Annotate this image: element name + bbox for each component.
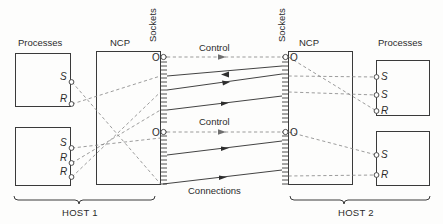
label-processes-right: Processes: [378, 37, 423, 48]
process-socket-links-left: [72, 76, 161, 184]
label-sockets-right: Sockets: [276, 8, 287, 42]
socket-marker-left-upper-label: O: [152, 52, 160, 63]
port-marker-right-lower-s: [374, 153, 379, 158]
label-connections: Connections: [188, 185, 241, 196]
socket-marker-left-upper: [161, 54, 166, 59]
connection-arrowhead-mid: [221, 101, 229, 106]
port-marker-left-upper-s: [69, 80, 74, 85]
control-lower-arrowhead: [218, 129, 226, 135]
port-marker-right-lower-r: [374, 173, 379, 178]
host-brace-right: [290, 196, 430, 204]
port-marker-right-upper-r: [374, 109, 379, 114]
process-socket-links-right: [289, 57, 377, 176]
ncp-box-left: [97, 52, 161, 185]
label-control-lower: Control: [199, 116, 230, 127]
port-label-left-lower-r1: R: [60, 152, 67, 163]
label-processes-left: Processes: [18, 37, 63, 48]
port-label-right-lower-s: S: [381, 149, 388, 160]
port-label-right-upper-s1: S: [381, 71, 388, 82]
port-marker-right-upper-s1: [374, 75, 379, 80]
ncp-box-right: [289, 52, 353, 185]
socket-marker-right-upper: [283, 54, 288, 59]
socket-marker-right-lower: [283, 129, 288, 134]
port-marker-left-lower-r2: [69, 175, 74, 180]
port-label-right-upper-r: R: [381, 105, 388, 116]
socket-ticks-right: [282, 57, 289, 184]
port-marker-left-lower-r1: [69, 161, 74, 166]
port-label-right-lower-r: R: [381, 169, 388, 180]
socket-marker-left-lower: [161, 129, 166, 134]
port-label-left-lower-r2: R: [60, 166, 67, 177]
label-sockets-left: Sockets: [147, 8, 158, 42]
host-brace-left: [14, 196, 155, 204]
port-marker-left-upper-r: [69, 102, 74, 107]
label-ncp-right: NCP: [299, 37, 319, 48]
socket-marker-right-lower-label: O: [290, 127, 298, 138]
port-label-left-upper-s: S: [60, 71, 67, 82]
port-label-left-upper-r: R: [60, 93, 67, 104]
label-host-right: HOST 2: [338, 207, 374, 218]
socket-ticks-left: [161, 57, 168, 184]
port-marker-left-lower-s: [69, 146, 74, 151]
label-host-left: HOST 1: [62, 207, 98, 218]
port-marker-right-upper-s2: [374, 93, 379, 98]
label-ncp-left: NCP: [110, 37, 130, 48]
diagram-canvas: Processes NCP Sockets Sockets NCP Proces…: [0, 0, 443, 224]
connection-arrowhead-leftward: [221, 72, 229, 78]
ncp-sockets-diagram: Processes NCP Sockets Sockets NCP Proces…: [0, 0, 443, 224]
label-control-upper: Control: [199, 42, 230, 53]
port-label-left-lower-s: S: [60, 137, 67, 148]
control-upper-arrowhead: [218, 54, 226, 60]
port-label-right-upper-s2: S: [381, 89, 388, 100]
socket-marker-right-upper-label: O: [290, 52, 298, 63]
socket-marker-left-lower-label: O: [152, 127, 160, 138]
